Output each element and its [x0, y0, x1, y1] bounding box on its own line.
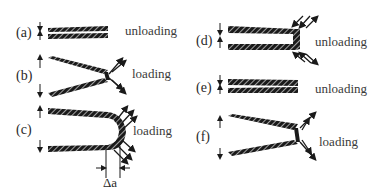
panel-f-crack — [220, 114, 314, 158]
panel-e-state: unloading — [315, 82, 367, 95]
panel-b-state: loading — [132, 67, 171, 80]
panel-e-label: (e) — [196, 81, 212, 95]
panel-a-state: unloading — [125, 24, 177, 37]
panel-d-crack — [220, 16, 316, 63]
panel-b-crack — [40, 56, 124, 97]
panel-f-label: (f) — [196, 130, 210, 144]
panel-c-crack — [40, 108, 135, 178]
panel-f-state: loading — [319, 135, 358, 148]
panel-a-label: (a) — [16, 26, 32, 40]
panel-d-state: unloading — [315, 35, 367, 48]
panel-e-crack — [220, 75, 298, 94]
panel-a-crack — [40, 22, 108, 40]
panel-b-label: (b) — [16, 69, 32, 83]
crack-growth-label: Δa — [103, 176, 117, 189]
panel-c-label: (c) — [16, 123, 32, 137]
panel-d-label: (d) — [196, 34, 212, 48]
panel-c-state: loading — [133, 124, 172, 137]
